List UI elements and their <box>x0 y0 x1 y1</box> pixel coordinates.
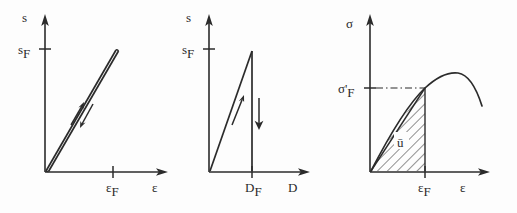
y-axis-panel-1 <box>41 14 49 172</box>
y-tick-label-panel-1: sF <box>18 42 30 61</box>
plot-panel-1: s sF εF ε <box>0 0 175 213</box>
unloading-arrow-down-panel-2 <box>255 98 264 130</box>
y-tick-label-panel-3: σ'F <box>338 81 355 100</box>
hysteresis-loop-panel-1 <box>46 50 119 172</box>
loading-line-panel-2 <box>210 51 252 171</box>
u-bar-label: ū <box>397 135 404 150</box>
figure-container: s sF εF ε s sF DF <box>0 0 517 213</box>
y-axis-panel-2 <box>205 14 213 172</box>
x-axis-panel-1 <box>45 168 168 176</box>
y-axis-label-panel-1: s <box>22 10 27 25</box>
x-axis-label-panel-1: ε <box>152 180 158 195</box>
x-axis-label-panel-3: ε <box>460 180 466 195</box>
y-axis-panel-3 <box>366 14 374 172</box>
x-tick-label-panel-1: εF <box>106 180 119 199</box>
loading-arrow-up-panel-2 <box>232 95 244 125</box>
y-axis-label-panel-2: s <box>186 10 191 25</box>
y-tick-label-panel-2: sF <box>182 42 194 61</box>
plot-panel-2: s sF DF D <box>160 0 340 213</box>
x-tick-label-panel-3: εF <box>418 180 431 199</box>
u-bar-label-group: ū <box>394 132 409 150</box>
x-tick-label-panel-2: DF <box>245 180 262 199</box>
x-axis-label-panel-2: D <box>288 180 297 195</box>
y-axis-label-panel-3: σ <box>346 16 353 31</box>
x-axis-panel-2 <box>209 168 310 176</box>
plot-panel-3: σ σ'F εF ε ū <box>330 0 517 213</box>
